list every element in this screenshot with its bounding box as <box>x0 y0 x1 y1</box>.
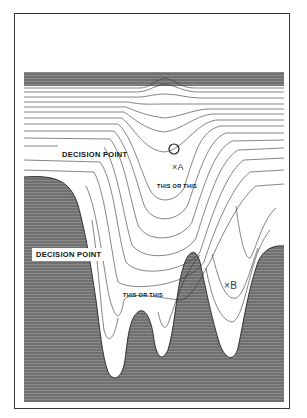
decision-point-label-upper: DECISION POINT <box>62 150 127 159</box>
marker-b-label: ×B <box>224 280 237 291</box>
marker-a-label: ×A <box>172 162 184 172</box>
contour-diagram <box>0 0 307 418</box>
this-or-this-label-lower: THIS OR THIS <box>123 292 163 298</box>
this-or-this-label-upper: THIS OR THIS <box>157 183 197 189</box>
decision-point-label-lower: DECISION POINT <box>32 248 105 261</box>
shaded-region <box>24 177 284 402</box>
top-shaded-band <box>24 72 284 86</box>
